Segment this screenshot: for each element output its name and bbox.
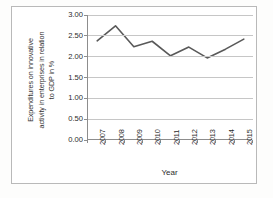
gridline [88,98,253,99]
x-axis-tick-label: 2007 [99,129,107,145]
y-axis-tick-mark [84,119,87,120]
x-axis-tick-labels: 200720082009201020112012201320142015 [87,140,252,170]
gridline [88,15,253,16]
y-axis-tick-label: 2.50 [57,32,83,40]
y-axis-tick-label: 0.00 [57,136,83,144]
y-axis-tick-label: 1.50 [57,74,83,82]
series-line [97,26,244,58]
x-axis-tick-label: 2015 [246,129,254,145]
x-axis-tick-label: 2012 [191,129,199,145]
gridline [88,35,253,36]
x-axis-tick-label: 2010 [154,129,162,145]
gridline [88,77,253,78]
gridline [88,56,253,57]
x-axis-tick-label: 2011 [173,130,181,145]
plot-area [87,15,252,140]
y-axis-tick-label: 1.00 [57,94,83,102]
x-axis-title: Year [87,168,252,177]
y-axis-tick-mark [84,140,87,141]
y-axis-tick-mark [84,15,87,16]
gridline [88,119,253,120]
y-axis-tick-labels: 0.000.501.001.502.002.503.00 [55,15,83,140]
y-axis-tick-mark [84,35,87,36]
chart-figure: Expenditures on innovative activity in e… [0,0,273,198]
y-axis-tick-label: 2.00 [57,53,83,61]
x-axis-tick-label: 2009 [136,129,144,145]
x-axis-tick-label: 2014 [228,129,236,145]
y-axis-tick-mark [84,98,87,99]
x-axis-tick-label: 2013 [209,129,217,145]
y-axis-tick-label: 0.50 [57,115,83,123]
x-axis-tick-label: 2008 [118,129,126,145]
x-axis-tick-mark [87,140,88,143]
y-axis-tick-label: 3.00 [57,11,83,19]
y-axis-tick-mark [84,77,87,78]
y-axis-tick-mark [84,56,87,57]
